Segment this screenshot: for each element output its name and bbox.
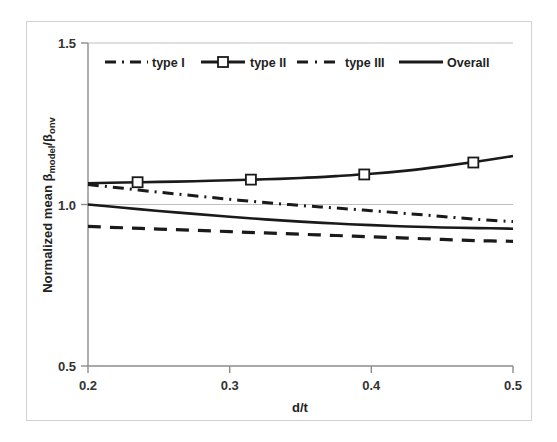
legend-label-type-iii: type III (345, 56, 385, 70)
y-tick-label-1.0: 1.0 (58, 198, 76, 213)
y-axis-title-slash: /β (40, 134, 55, 146)
x-tick-label-0.4: 0.4 (362, 378, 381, 393)
legend-marker-square-icon (218, 57, 228, 67)
line-chart: 1.5 1.0 0.5 0.2 0.3 0.4 0.5 d/t Normaliz… (0, 0, 557, 442)
data-point-marker (133, 177, 143, 187)
chart-figure: 1.5 1.0 0.5 0.2 0.3 0.4 0.5 d/t Normaliz… (0, 0, 557, 442)
y-tick-label-1.5: 1.5 (58, 36, 76, 51)
y-axis-title-sub-model: model (46, 146, 57, 174)
legend-label-type-i: type I (152, 56, 185, 70)
x-tick-label-0.2: 0.2 (79, 378, 97, 393)
y-axis-title-prefix: Normalized mean β (40, 174, 55, 293)
data-point-marker (359, 169, 369, 179)
y-tick-label-0.5: 0.5 (58, 359, 76, 374)
y-axis-title-sub-onv: onv (46, 116, 57, 134)
y-axis-title: Normalized mean βmodel/βonv (40, 116, 57, 292)
x-tick-label-0.3: 0.3 (221, 378, 239, 393)
legend-label-overall: Overall (447, 56, 489, 70)
legend-label-type-ii: type II (250, 56, 286, 70)
x-axis-title: d/t (292, 400, 309, 415)
data-point-marker (468, 158, 478, 168)
x-tick-label-0.5: 0.5 (504, 378, 522, 393)
data-point-marker (246, 175, 256, 185)
